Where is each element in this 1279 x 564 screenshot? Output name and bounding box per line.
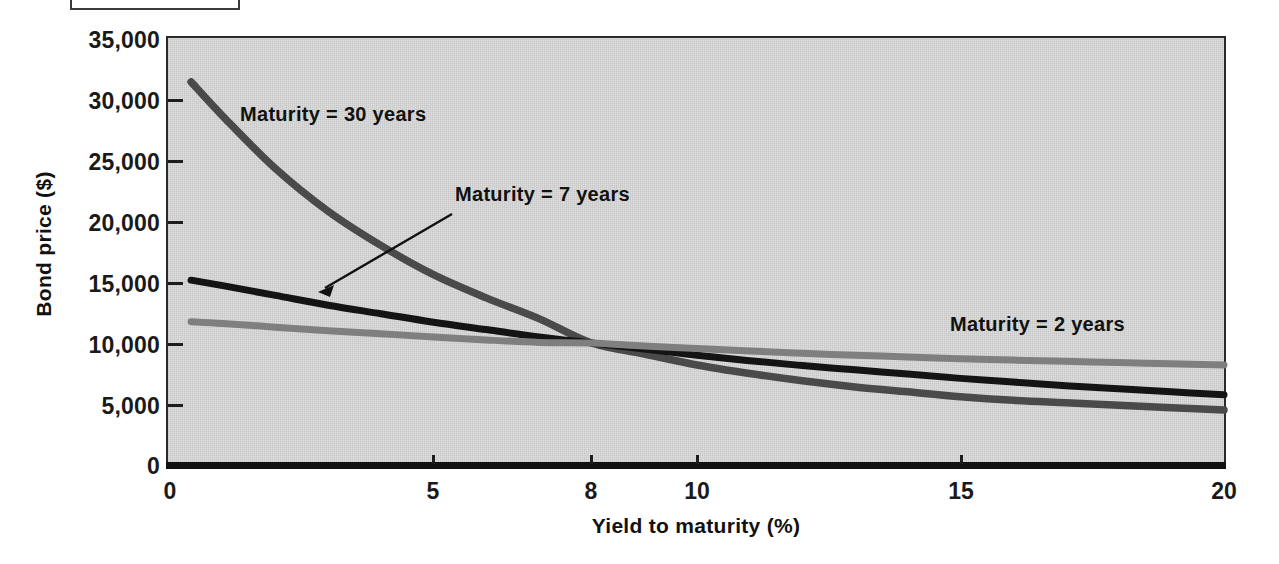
x-tick-label-0: 0	[130, 478, 210, 505]
x-tick-label-20: 20	[1184, 478, 1264, 505]
annotation-maturity-7-years: Maturity = 7 years	[455, 183, 630, 206]
x-tick-15	[960, 455, 963, 464]
x-tick-label-5: 5	[393, 478, 473, 505]
x-tick-8	[590, 455, 593, 464]
bond-price-vs-yield-figure: 35,000 30,000 25,000 20,000 15,000 10,00…	[0, 0, 1279, 564]
x-tick-label-15: 15	[921, 478, 1001, 505]
x-tick-10	[696, 455, 699, 464]
x-axis-title: Yield to maturity (%)	[168, 514, 1224, 538]
annotation-maturity-2-years: Maturity = 2 years	[950, 313, 1125, 336]
x-tick-5	[432, 455, 435, 464]
maturity-7-annotation-arrow	[318, 214, 452, 297]
x-tick-label-10: 10	[657, 478, 737, 505]
series-line-maturity-7-years	[191, 280, 1224, 395]
x-tick-label-8: 8	[551, 478, 631, 505]
annotation-maturity-30-years: Maturity = 30 years	[240, 103, 426, 126]
